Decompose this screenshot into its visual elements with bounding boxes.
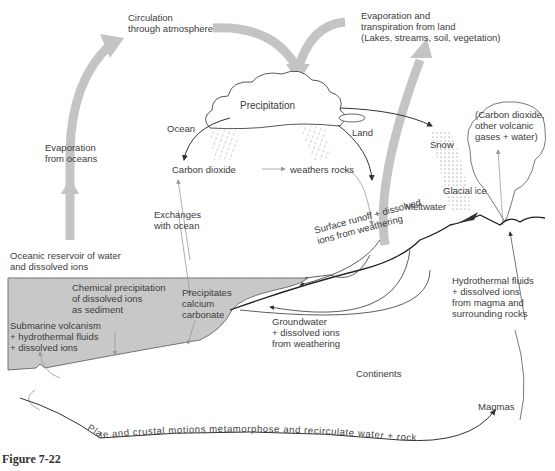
circulation-arrow [213,28,298,70]
exchanges-label: Exchanges with ocean [154,209,201,231]
submarine-volcanism-label: Submarine volcanism + hydrothermal fluid… [10,320,101,353]
hydrothermal-label: Hydrothermal fluids + dissolved ions fro… [452,275,534,319]
chemical-precipitation-label: Chemical precipitation of dissolved ions… [72,282,165,315]
land-label: Land [352,127,373,138]
volcanic-gases-label: (Carbon dioxide, other volcanic gases + … [475,109,545,142]
precipitates-caco3-label: Precipitates calcium carbonate [182,287,232,320]
circulation-label: Circulation through atmosphere [128,12,213,34]
magmas-label: Magmas [478,401,514,412]
plate-motions-label: Plate and crustal motions metamorphose a… [86,422,417,443]
evap-oceans-label: Evaporation from oceans [45,142,97,164]
oceanic-reservoir-label: Oceanic reservoir of water and dissolved… [10,250,121,272]
groundwater-label: Groundwater + dissolved ions from weathe… [272,316,340,349]
carbon-dioxide-label: Carbon dioxide [172,164,236,175]
precipitation-label: Precipitation [240,100,295,111]
snow-label: Snow [430,139,454,150]
weathers-rocks-label: weathers rocks [290,164,354,175]
continents-label: Continents [356,368,401,379]
evap-land-label: Evaporation and transpiration from land … [361,10,500,43]
svg-text:Plate and crustal motions meta: Plate and crustal motions metamorphose a… [86,422,417,443]
water-cycle-diagram: Plate and crustal motions metamorphose a… [0,0,555,471]
ocean-label: Ocean [167,123,195,134]
glacial-ice-label: Glacial ice [443,185,487,196]
figure-caption: Figure 7-22 [2,452,61,467]
